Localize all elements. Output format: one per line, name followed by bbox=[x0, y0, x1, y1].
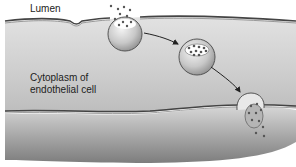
vesicle-endocytosis bbox=[108, 5, 142, 51]
vesicle-transit bbox=[179, 39, 215, 75]
cytoplasm-label-line1: Cytoplasm of bbox=[30, 72, 88, 83]
cytoplasm-label-line2: endothelial cell bbox=[30, 84, 96, 95]
lumen-label: Lumen bbox=[30, 3, 61, 14]
transcytosis-diagram: Lumen Cytoplasm of endothelial cell bbox=[0, 0, 296, 167]
